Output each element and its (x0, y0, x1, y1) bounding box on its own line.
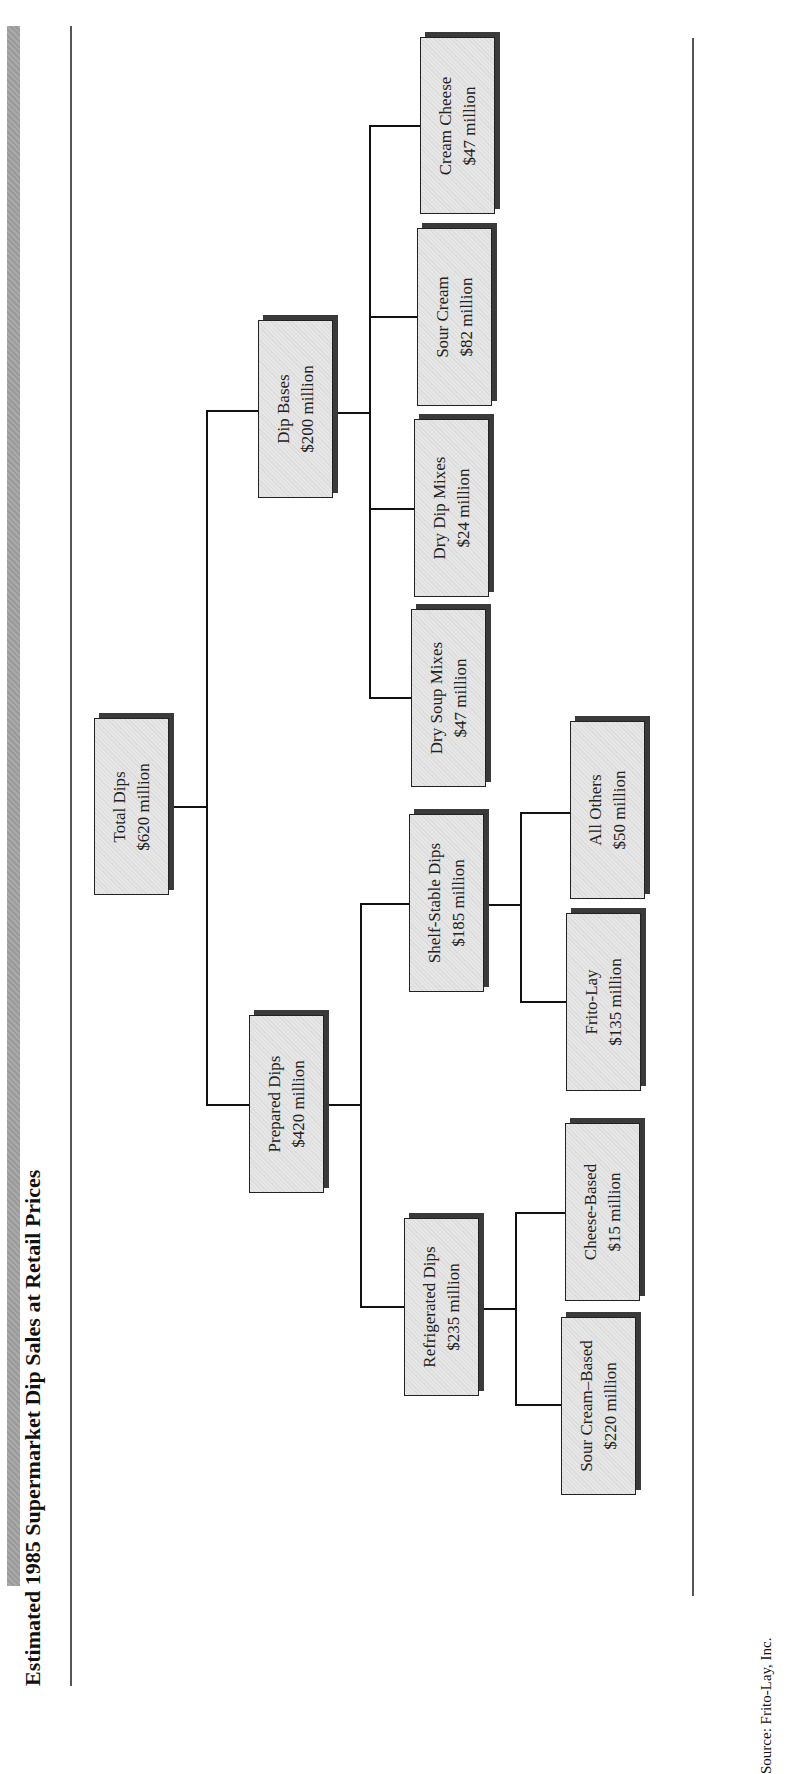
connector-dip-bases (206, 410, 258, 412)
node-label: Cheese-Based (579, 1164, 603, 1260)
node-value: $200 million (296, 365, 320, 452)
connector-prepared (206, 1104, 249, 1106)
node-label: Cream Cheese (434, 76, 458, 175)
node-value: $47 million (458, 76, 482, 175)
node-label: Sour Cream–Based (575, 1340, 599, 1472)
node-prepared-dips: Prepared Dips$420 million (249, 1015, 324, 1193)
node-value: $82 million (455, 276, 479, 358)
connector-refrigerated-out (479, 1308, 517, 1310)
node-label: Sour Cream (431, 276, 455, 358)
page-edge-strip (7, 26, 20, 1586)
connector-level1-spine (206, 410, 208, 1106)
connector-all-others (520, 812, 570, 814)
connector-shelf-stable-out (484, 904, 522, 906)
node-dry-dip-mixes: Dry Dip Mixes$24 million (414, 419, 489, 597)
connector-cheese-based (515, 1212, 565, 1214)
node-value: $15 million (603, 1164, 627, 1260)
node-dry-soup-mixes: Dry Soup Mixes$47 million (411, 609, 486, 787)
node-value: $50 million (608, 771, 632, 850)
node-label: Dry Soup Mixes (425, 642, 449, 754)
connector-sour-cream (369, 316, 417, 318)
node-shelf-stable-dips: Shelf-Stable Dips$185 million (409, 814, 484, 992)
node-value: $420 million (287, 1056, 311, 1153)
node-label: Dry Dip Mixes (428, 457, 452, 560)
connector-cream-cheese (369, 125, 420, 127)
node-label: Prepared Dips (263, 1056, 287, 1153)
connector-dip-bases-spine (369, 125, 371, 699)
connector-dip-bases-out (333, 412, 371, 414)
node-sour-cream: Sour Cream$82 million (417, 228, 492, 406)
connector-shelf-stable (360, 903, 409, 905)
node-dip-bases: Dip Bases$200 million (258, 320, 333, 498)
diagram-title: Estimated 1985 Supermarket Dip Sales at … (20, 1170, 46, 1686)
node-label: Dip Bases (272, 365, 296, 452)
footer-rule (692, 38, 694, 1596)
node-label: All Others (584, 771, 608, 850)
connector-sour-cream-based (515, 1404, 561, 1406)
node-label: Shelf-Stable Dips (423, 843, 447, 963)
node-all-others: All Others$50 million (570, 721, 645, 899)
title-rule (70, 26, 72, 1686)
connector-frito-lay (520, 1001, 566, 1003)
connector-refrigerated-spine (515, 1212, 517, 1406)
connector-prepared-out (324, 1104, 362, 1106)
node-cheese-based: Cheese-Based$15 million (565, 1123, 640, 1301)
node-value: $620 million (132, 763, 156, 850)
node-cream-cheese: Cream Cheese$47 million (420, 37, 495, 214)
node-refrigerated-dips: Refrigerated Dips$235 million (404, 1218, 479, 1396)
node-frito-lay: Frito-Lay$135 million (566, 913, 641, 1091)
node-value: $135 million (604, 958, 628, 1045)
node-label: Frito-Lay (580, 958, 604, 1045)
connector-dry-dip (369, 508, 414, 510)
node-value: $220 million (599, 1340, 623, 1472)
node-value: $185 million (447, 843, 471, 963)
node-sour-cream-based: Sour Cream–Based$220 million (561, 1317, 636, 1495)
connector-shelf-stable-spine (520, 812, 522, 1003)
connector-root (168, 806, 208, 808)
connector-refrigerated (360, 1306, 404, 1308)
node-value: $235 million (442, 1246, 466, 1367)
connector-dry-soup (369, 697, 411, 699)
node-label: Total Dips (108, 763, 132, 850)
node-value: $47 million (449, 642, 473, 754)
source-note: Source: Frito-Lay, Inc. (758, 1638, 775, 1774)
node-total-dips: Total Dips$620 million (94, 718, 169, 895)
node-value: $24 million (452, 457, 476, 560)
connector-prepared-spine (360, 903, 362, 1308)
node-label: Refrigerated Dips (418, 1246, 442, 1367)
